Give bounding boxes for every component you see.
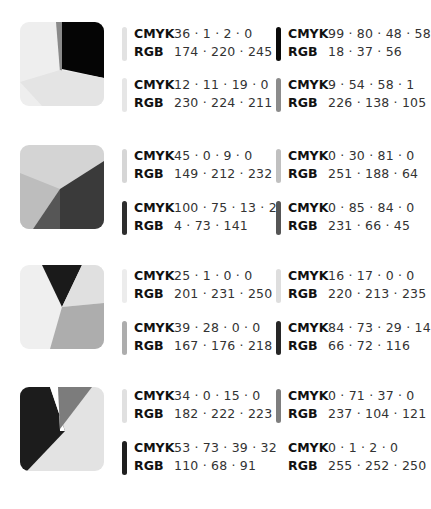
rgb-value: 4 · 73 · 141 bbox=[174, 218, 248, 233]
palette-2-color-3: CMYK100 · 75 · 13 · 2 RGB4 · 73 · 141 bbox=[122, 198, 272, 238]
cmyk-label: CMYK bbox=[288, 200, 328, 216]
rgb-label: RGB bbox=[134, 406, 174, 422]
cmyk-label: CMYK bbox=[288, 440, 328, 456]
palette-2-color-4: CMYK0 · 85 · 84 · 0 RGB231 · 66 · 45 bbox=[276, 198, 426, 238]
color-bar bbox=[122, 27, 127, 61]
color-bar bbox=[122, 201, 127, 235]
palette-1-swatch bbox=[20, 22, 104, 106]
color-bar bbox=[122, 441, 127, 475]
cmyk-label: CMYK bbox=[134, 388, 174, 404]
color-bar bbox=[122, 78, 127, 112]
rgb-value: 220 · 213 · 235 bbox=[328, 286, 426, 301]
palette-4-color-3: CMYK53 · 73 · 39 · 32 RGB110 · 68 · 91 bbox=[122, 438, 272, 478]
cmyk-label: CMYK bbox=[288, 320, 328, 336]
palette-1-color-2: CMYK99 · 80 · 48 · 58 RGB18 · 37 · 56 bbox=[276, 24, 426, 64]
color-bar bbox=[276, 149, 281, 183]
cmyk-label: CMYK bbox=[288, 388, 328, 404]
cmyk-label: CMYK bbox=[134, 320, 174, 336]
palette-3-swatch bbox=[20, 265, 104, 349]
color-bar bbox=[276, 389, 281, 423]
cmyk-value: 9 · 54 · 58 · 1 bbox=[328, 77, 414, 92]
palette-2-swatch bbox=[20, 145, 104, 229]
rgb-label: RGB bbox=[288, 286, 328, 302]
cmyk-value: 25 · 1 · 0 · 0 bbox=[174, 268, 252, 283]
rgb-label: RGB bbox=[288, 458, 328, 474]
rgb-label: RGB bbox=[134, 218, 174, 234]
rgb-value: 66 · 72 · 116 bbox=[328, 338, 410, 353]
color-bar bbox=[122, 321, 127, 355]
cmyk-value: 36 · 1 · 2 · 0 bbox=[174, 26, 252, 41]
cmyk-value: 100 · 75 · 13 · 2 bbox=[174, 200, 277, 215]
rgb-value: 237 · 104 · 121 bbox=[328, 406, 426, 421]
rgb-value: 226 · 138 · 105 bbox=[328, 95, 426, 110]
cmyk-label: CMYK bbox=[288, 77, 328, 93]
cmyk-label: CMYK bbox=[134, 26, 174, 42]
palette-1-swatch-graphic bbox=[20, 22, 104, 106]
rgb-label: RGB bbox=[134, 166, 174, 182]
cmyk-label: CMYK bbox=[134, 77, 174, 93]
palette-3-color-3: CMYK39 · 28 · 0 · 0 RGB167 · 176 · 218 bbox=[122, 318, 272, 358]
cmyk-label: CMYK bbox=[288, 148, 328, 164]
rgb-label: RGB bbox=[288, 218, 328, 234]
cmyk-label: CMYK bbox=[134, 268, 174, 284]
rgb-value: 174 · 220 · 245 bbox=[174, 44, 272, 59]
rgb-label: RGB bbox=[288, 95, 328, 111]
palette-2-color-2: CMYK0 · 30 · 81 · 0 RGB251 · 188 · 64 bbox=[276, 146, 426, 186]
palette-2-swatch-graphic bbox=[20, 145, 104, 229]
color-bar bbox=[276, 78, 281, 112]
cmyk-value: 0 · 85 · 84 · 0 bbox=[328, 200, 414, 215]
palette-3-color-1: CMYK25 · 1 · 0 · 0 RGB201 · 231 · 250 bbox=[122, 266, 272, 306]
cmyk-value: 12 · 11 · 19 · 0 bbox=[174, 77, 269, 92]
palette-2-color-1: CMYK45 · 0 · 9 · 0 RGB149 · 212 · 232 bbox=[122, 146, 272, 186]
rgb-value: 251 · 188 · 64 bbox=[328, 166, 418, 181]
cmyk-value: 45 · 0 · 9 · 0 bbox=[174, 148, 252, 163]
rgb-value: 182 · 222 · 223 bbox=[174, 406, 272, 421]
palette-3-swatch-graphic bbox=[20, 265, 104, 349]
cmyk-value: 34 · 0 · 15 · 0 bbox=[174, 388, 260, 403]
rgb-value: 18 · 37 · 56 bbox=[328, 44, 402, 59]
color-bar bbox=[122, 389, 127, 423]
rgb-label: RGB bbox=[134, 44, 174, 60]
palette-1-color-4: CMYK9 · 54 · 58 · 1 RGB226 · 138 · 105 bbox=[276, 75, 426, 115]
color-bar bbox=[276, 201, 281, 235]
cmyk-label: CMYK bbox=[134, 440, 174, 456]
palette-4-color-1: CMYK34 · 0 · 15 · 0 RGB182 · 222 · 223 bbox=[122, 386, 272, 426]
cmyk-value: 84 · 73 · 29 · 14 bbox=[328, 320, 431, 335]
cmyk-value: 0 · 71 · 37 · 0 bbox=[328, 388, 414, 403]
cmyk-value: 99 · 80 · 48 · 58 bbox=[328, 26, 431, 41]
palette-4-color-2: CMYK0 · 71 · 37 · 0 RGB237 · 104 · 121 bbox=[276, 386, 426, 426]
rgb-label: RGB bbox=[134, 95, 174, 111]
color-bar bbox=[276, 269, 281, 303]
cmyk-label: CMYK bbox=[288, 26, 328, 42]
rgb-label: RGB bbox=[288, 44, 328, 60]
cmyk-label: CMYK bbox=[134, 148, 174, 164]
rgb-label: RGB bbox=[134, 286, 174, 302]
rgb-label: RGB bbox=[288, 406, 328, 422]
color-bar bbox=[122, 149, 127, 183]
cmyk-value: 16 · 17 · 0 · 0 bbox=[328, 268, 414, 283]
color-bar bbox=[122, 269, 127, 303]
cmyk-value: 53 · 73 · 39 · 32 bbox=[174, 440, 277, 455]
cmyk-value: 0 · 1 · 2 · 0 bbox=[328, 440, 398, 455]
rgb-value: 167 · 176 · 218 bbox=[174, 338, 272, 353]
cmyk-label: CMYK bbox=[288, 268, 328, 284]
palette-1-color-3: CMYK12 · 11 · 19 · 0 RGB230 · 224 · 211 bbox=[122, 75, 272, 115]
rgb-value: 230 · 224 · 211 bbox=[174, 95, 272, 110]
rgb-label: RGB bbox=[288, 166, 328, 182]
palette-1-color-1: CMYK36 · 1 · 2 · 0 RGB174 · 220 · 245 bbox=[122, 24, 272, 64]
rgb-value: 149 · 212 · 232 bbox=[174, 166, 272, 181]
rgb-value: 255 · 252 · 250 bbox=[328, 458, 426, 473]
cmyk-value: 0 · 30 · 81 · 0 bbox=[328, 148, 414, 163]
rgb-label: RGB bbox=[288, 338, 328, 354]
rgb-value: 110 · 68 · 91 bbox=[174, 458, 256, 473]
cmyk-value: 39 · 28 · 0 · 0 bbox=[174, 320, 260, 335]
palette-4-swatch-graphic bbox=[20, 387, 104, 471]
palette-3-color-2: CMYK16 · 17 · 0 · 0 RGB220 · 213 · 235 bbox=[276, 266, 426, 306]
rgb-value: 201 · 231 · 250 bbox=[174, 286, 272, 301]
palette-4-swatch bbox=[20, 387, 104, 471]
color-bar bbox=[276, 441, 281, 475]
palette-4-color-4: CMYK0 · 1 · 2 · 0 RGB255 · 252 · 250 bbox=[276, 438, 426, 478]
palette-3-color-4: CMYK84 · 73 · 29 · 14 RGB66 · 72 · 116 bbox=[276, 318, 426, 358]
color-bar bbox=[276, 27, 281, 61]
rgb-label: RGB bbox=[134, 338, 174, 354]
